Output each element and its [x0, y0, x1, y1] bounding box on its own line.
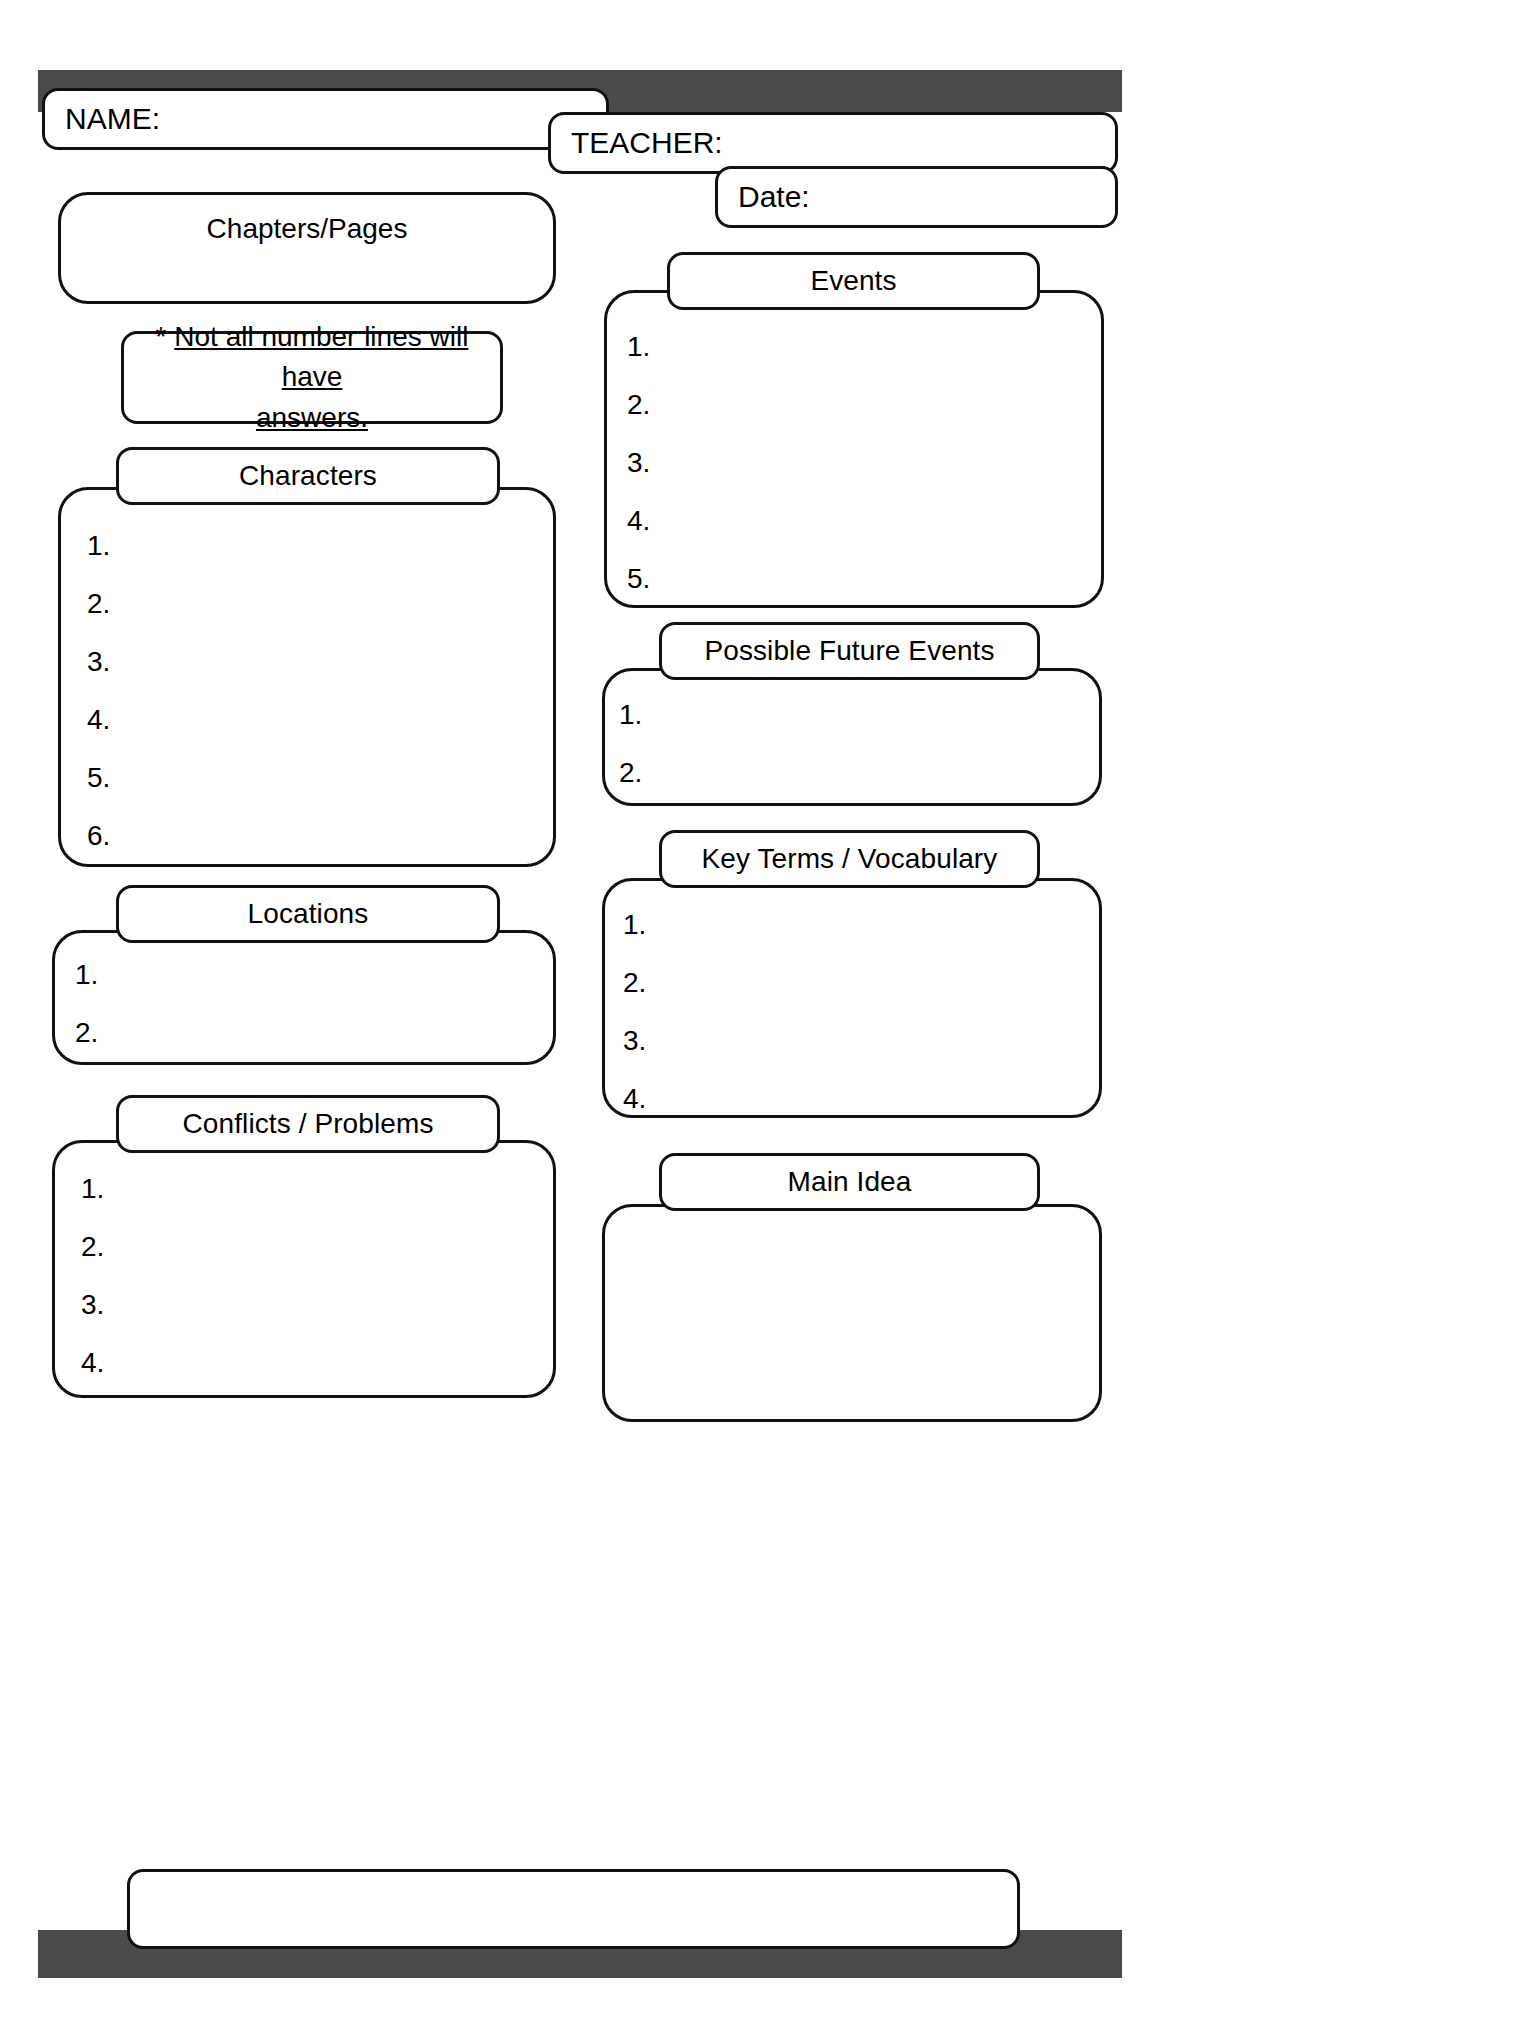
locations-title-tab: Locations — [116, 885, 500, 943]
locations-item-1: 1. — [75, 961, 98, 989]
future-events-item-2: 2. — [619, 759, 642, 787]
date-label: Date: — [738, 180, 810, 214]
future-events-item-1: 1. — [619, 701, 642, 729]
locations-box[interactable]: 1. 2. — [52, 930, 556, 1065]
key-terms-box[interactable]: 1. 2. 3. 4. — [602, 878, 1102, 1118]
conflicts-item-2: 2. — [81, 1233, 104, 1261]
teacher-field[interactable]: TEACHER: — [548, 112, 1118, 174]
main-idea-box[interactable] — [602, 1204, 1102, 1422]
future-events-box[interactable]: 1. 2. — [602, 668, 1102, 806]
locations-item-2: 2. — [75, 1019, 98, 1047]
characters-item-6: 6. — [87, 822, 110, 850]
teacher-label: TEACHER: — [571, 126, 723, 160]
name-label: NAME: — [65, 102, 160, 136]
conflicts-item-1: 1. — [81, 1175, 104, 1203]
events-item-3: 3. — [627, 449, 650, 477]
future-events-title: Possible Future Events — [704, 635, 994, 667]
key-terms-item-1: 1. — [623, 911, 646, 939]
note-text-line2: answers. — [256, 398, 368, 439]
conflicts-item-3: 3. — [81, 1291, 104, 1319]
characters-item-5: 5. — [87, 764, 110, 792]
characters-box[interactable]: 1. 2. 3. 4. 5. 6. — [58, 487, 556, 867]
main-idea-title: Main Idea — [788, 1166, 912, 1198]
main-idea-title-tab: Main Idea — [659, 1153, 1040, 1211]
characters-title-tab: Characters — [116, 447, 500, 505]
footer-note-box[interactable] — [127, 1869, 1020, 1949]
note-line-1: * Not all number lines will have — [138, 317, 486, 398]
events-box[interactable]: 1. 2. 3. 4. 5. — [604, 290, 1104, 608]
characters-item-2: 2. — [87, 590, 110, 618]
conflicts-box[interactable]: 1. 2. 3. 4. — [52, 1140, 556, 1398]
events-item-1: 1. — [627, 333, 650, 361]
key-terms-item-4: 4. — [623, 1085, 646, 1113]
characters-item-3: 3. — [87, 648, 110, 676]
characters-item-1: 1. — [87, 532, 110, 560]
name-field[interactable]: NAME: — [42, 88, 609, 150]
locations-title: Locations — [248, 898, 369, 930]
events-title-tab: Events — [667, 252, 1040, 310]
date-field[interactable]: Date: — [715, 166, 1118, 228]
number-lines-note: * Not all number lines will have answers… — [121, 331, 503, 424]
events-title: Events — [810, 265, 896, 297]
events-item-4: 4. — [627, 507, 650, 535]
conflicts-item-4: 4. — [81, 1349, 104, 1377]
characters-title: Characters — [239, 460, 377, 492]
note-text-line1: Not all number lines will have — [174, 321, 468, 393]
key-terms-title-tab: Key Terms / Vocabulary — [659, 830, 1040, 888]
key-terms-item-3: 3. — [623, 1027, 646, 1055]
chapters-pages-title: Chapters/Pages — [61, 213, 553, 245]
future-events-title-tab: Possible Future Events — [659, 622, 1040, 680]
key-terms-title: Key Terms / Vocabulary — [702, 843, 998, 875]
worksheet-page: NAME: TEACHER: Date: Chapters/Pages * No… — [0, 0, 1514, 2040]
key-terms-item-2: 2. — [623, 969, 646, 997]
chapters-pages-box[interactable]: Chapters/Pages — [58, 192, 556, 304]
conflicts-title-tab: Conflicts / Problems — [116, 1095, 500, 1153]
characters-item-4: 4. — [87, 706, 110, 734]
events-item-5: 5. — [627, 565, 650, 593]
conflicts-title: Conflicts / Problems — [183, 1108, 434, 1140]
note-asterisk: * — [156, 321, 167, 352]
events-item-2: 2. — [627, 391, 650, 419]
